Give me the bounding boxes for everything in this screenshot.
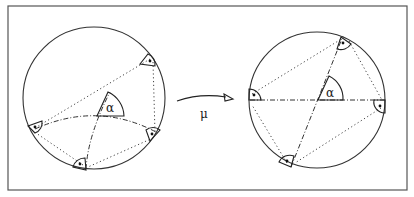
right-circle-panel: α	[249, 32, 385, 168]
right-edge-q1-q3	[349, 41, 382, 100]
right-marker-q1	[337, 37, 351, 50]
figure-frame	[8, 6, 407, 190]
right-edge-q4-q2	[252, 105, 287, 163]
left-circle-panel: α	[23, 27, 165, 170]
left-edge-p1-p3	[153, 62, 155, 133]
left-marker-p2	[28, 121, 42, 133]
mapping-label: μ	[200, 107, 208, 121]
left-marker-p1	[140, 54, 155, 66]
left-alpha-label: α	[106, 101, 114, 115]
right-marker-q3	[374, 100, 385, 113]
left-edge-p2-p1	[35, 59, 150, 128]
mapping-arrow-curve	[177, 96, 226, 101]
left-dashdot-arc	[35, 116, 156, 132]
diagram-canvas: α μ	[0, 0, 414, 197]
right-marker-q4	[279, 155, 294, 167]
mapping-arrowhead-icon	[224, 94, 233, 101]
right-alpha-label: α	[326, 86, 334, 100]
right-marker-q2	[249, 89, 261, 100]
right-edge-q3-q4	[295, 108, 381, 163]
left-circle	[23, 27, 165, 169]
right-dashdot-diagonal	[291, 36, 343, 167]
left-edge-p3-p4	[88, 138, 153, 167]
mapping-arrow: μ	[177, 94, 233, 121]
